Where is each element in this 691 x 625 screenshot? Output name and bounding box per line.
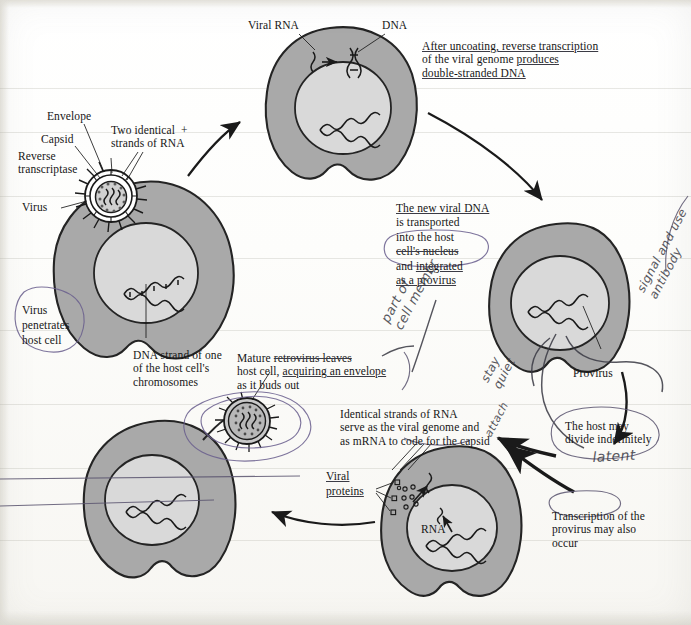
cell-transcription-translation bbox=[376, 443, 521, 596]
handwriting-latent: latent bbox=[592, 447, 636, 465]
arrow-penetration-to-uncoating bbox=[188, 122, 240, 176]
label-envelope: Envelope bbox=[47, 110, 91, 123]
callout-mature-retrovirus: Mature retrovirus leaveshost cell, acqui… bbox=[237, 352, 386, 392]
label-provirus: Provirus bbox=[573, 367, 613, 380]
callout-host-may-divide: The host maydivide indefinitely bbox=[565, 420, 652, 447]
label-dna: DNA bbox=[382, 19, 407, 32]
label-viral-rna: Viral RNA bbox=[248, 19, 299, 32]
callout-virus-penetrates: Viruspenetrateshost cell bbox=[22, 303, 70, 348]
diagram-page: Envelope Capsid Reversetranscriptase Vir… bbox=[0, 0, 691, 625]
label-virus: Virus bbox=[22, 201, 47, 214]
arrow-assembly-to-budding bbox=[272, 512, 375, 525]
callout-transcription-provirus: Transcription of theprovirus may alsoocc… bbox=[552, 510, 645, 550]
label-reverse-transcriptase: Reversetranscriptase bbox=[18, 150, 77, 177]
pen-curve-mid-2 bbox=[382, 346, 414, 356]
callout-dna-strand-host: DNA strand of oneof the host cell'schrom… bbox=[133, 349, 222, 389]
pen-bracket-envelope bbox=[402, 352, 410, 390]
cell-budding-virus bbox=[84, 420, 236, 577]
cell-provirus-integrated bbox=[489, 223, 629, 372]
arrow-uncoating-to-integration bbox=[428, 113, 542, 200]
label-viral-proteins: Viralproteins bbox=[326, 469, 364, 499]
label-rna: RNA bbox=[421, 523, 446, 536]
callout-after-uncoating: After uncoating, reverse transcriptionof… bbox=[422, 40, 598, 80]
cell-virus-penetrating bbox=[54, 182, 234, 359]
callout-identical-strands: Identical strands of RNAserve as the vir… bbox=[340, 408, 490, 448]
cell-reverse-transcription bbox=[266, 27, 417, 179]
label-two-identical-strands: Two identical +strands of RNA bbox=[111, 124, 188, 151]
label-capsid: Capsid bbox=[41, 133, 74, 146]
